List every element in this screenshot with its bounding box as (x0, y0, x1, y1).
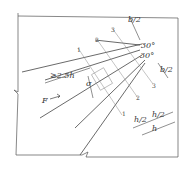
label-section-2a: 2 (95, 36, 99, 43)
label-h-half-2: h/2 (152, 110, 165, 119)
label-sigma: σ (86, 79, 92, 88)
bar-lines (22, 40, 145, 155)
label-angle-2: 30° (140, 51, 154, 60)
label-section-1b: 1 (122, 110, 126, 117)
label-b-half-top: b/2 (128, 15, 141, 24)
label-force: F (41, 96, 48, 105)
label-b-half-right: b/2 (160, 65, 173, 74)
label-h: h (152, 124, 157, 133)
anchorage-diagram: b/2 30° 30° b/2 ≥2.5h σ F h/2 h/2 h 1 1 … (0, 0, 188, 170)
label-h-half-1: h/2 (134, 115, 147, 124)
label-section-3a: 3 (111, 26, 115, 33)
label-length-min: ≥2.5h (50, 71, 75, 80)
label-section-2b: 2 (136, 94, 140, 101)
label-angle-1: 30° (141, 41, 155, 50)
label-section-1a: 1 (77, 46, 81, 53)
label-section-3b: 3 (152, 82, 156, 89)
force-arrow-icon (50, 94, 60, 99)
